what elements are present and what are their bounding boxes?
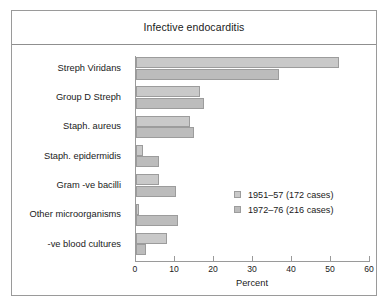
x-tick-label: 10 [169,264,179,274]
legend-swatch-icon [234,191,241,198]
x-tick-label: 20 [208,264,218,274]
x-tick [135,256,136,262]
legend-item[interactable]: 1951–57 (172 cases) [234,187,333,202]
title-band: Infective endocarditis [12,11,376,45]
bar [136,233,167,244]
x-tick-label: 30 [247,264,257,274]
category-label: Staph. epidermidis [44,152,121,161]
legend-label: 1951–57 (172 cases) [248,190,333,200]
category-label: -ve blood cultures [48,240,121,249]
category-label: Gram -ve bacilli [56,181,121,190]
bar [136,204,139,215]
x-tick [369,256,370,262]
x-axis-title: Percent [135,278,369,288]
bar [136,57,339,68]
legend-swatch-icon [234,206,241,213]
chart-title: Infective endocarditis [12,21,376,33]
plot-area: 0102030405060 Streph ViridansGroup D Str… [12,45,376,295]
x-tick [213,256,214,262]
x-tick-label: 60 [364,264,374,274]
x-tick-label: 40 [286,264,296,274]
bar [136,116,190,127]
bar [136,174,159,185]
bar [136,156,159,167]
x-tick [330,256,331,262]
chart-legend: 1951–57 (172 cases) 1972–76 (216 cases) [234,187,333,217]
category-label: Group D Streph [56,93,121,102]
bar [136,145,143,156]
x-tick-label: 50 [325,264,335,274]
legend-label: 1972–76 (216 cases) [248,205,333,215]
bar [136,127,194,138]
bar [136,186,176,197]
category-label: Other microorganisms [30,210,121,219]
x-tick-label: 0 [133,264,138,274]
bar [136,86,200,97]
category-label: Staph. aureus [63,122,121,131]
bar [136,244,146,255]
x-tick [252,256,253,262]
bar [136,215,178,226]
x-tick [291,256,292,262]
bar [136,69,279,80]
x-tick [174,256,175,262]
chart-frame: Infective endocarditis 0102030405060 Str… [11,10,377,296]
legend-item[interactable]: 1972–76 (216 cases) [234,202,333,217]
chart-figure: Infective endocarditis 0102030405060 Str… [0,0,388,306]
category-label: Streph Viridans [58,64,121,73]
bar [136,98,204,109]
